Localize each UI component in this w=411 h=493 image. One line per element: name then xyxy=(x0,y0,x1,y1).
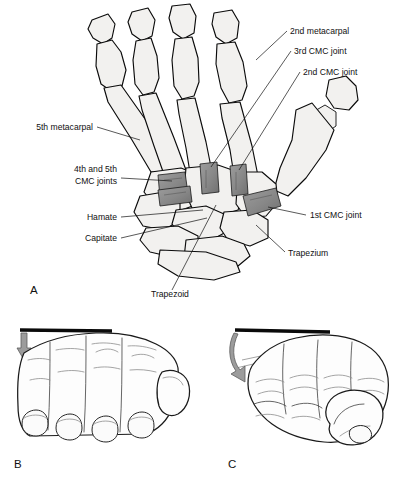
label-fourth-fifth-cmc-line2: CMC joints xyxy=(75,176,117,186)
surface-bar-c xyxy=(235,330,330,332)
cmc-marker-2 xyxy=(230,164,248,196)
label-trapezoid: Trapezoid xyxy=(151,289,189,299)
label-capitate: Capitate xyxy=(85,233,117,243)
cmc-marker-3 xyxy=(200,162,219,194)
anatomical-figure: 2nd metacarpal 3rd CMC joint 2nd CMC joi… xyxy=(0,0,411,493)
surface-bar-b xyxy=(20,330,112,331)
label-trapezium: Trapezium xyxy=(288,248,328,258)
panel-letter-b: B xyxy=(14,458,22,470)
label-second-cmc-joint: 2nd CMC joint xyxy=(303,67,358,77)
panel-letter-c: C xyxy=(228,458,236,470)
label-hamate: Hamate xyxy=(87,212,117,222)
label-fourth-fifth-cmc-line1: 4th and 5th xyxy=(74,164,117,174)
label-fifth-metacarpal: 5th metacarpal xyxy=(36,122,93,132)
label-third-cmc-joint: 3rd CMC joint xyxy=(294,46,347,56)
panel-letter-a: A xyxy=(30,284,38,296)
label-second-metacarpal: 2nd metacarpal xyxy=(290,26,349,36)
label-first-cmc-joint: 1st CMC joint xyxy=(310,210,362,220)
cmc-marker-4-5-lower xyxy=(158,186,192,206)
